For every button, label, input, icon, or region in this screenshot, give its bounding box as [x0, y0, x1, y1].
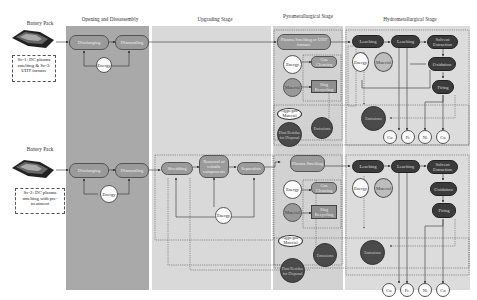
s2-shredding-node: Shredding — [161, 162, 193, 175]
s1-hydro-material-node: Material — [374, 52, 393, 72]
s2-hydro-material-node: Material — [374, 178, 393, 198]
s1-product-co: Co — [436, 130, 450, 144]
s1-oxidation-node: Oxidation — [428, 57, 456, 71]
s1-dismantling-node: Dismantling — [115, 35, 149, 50]
s2-hydro-energy-node: Energy — [352, 178, 369, 198]
s1-aggregate-node: Aggregate Material — [277, 108, 302, 120]
s1-discharging-node: Discharging — [69, 35, 109, 50]
s1-hydro-energy-node: Energy — [352, 52, 369, 72]
battery-pack-icon-2 — [10, 158, 56, 180]
s2-separation-node: Separation — [237, 162, 265, 175]
s1-pyro-energy-node: Energy — [283, 55, 302, 74]
s2-solvent-node: Solvent Extraction — [427, 160, 458, 174]
s2-pyro-material-node: Material — [283, 203, 302, 222]
s2-upgrading-energy-node: Energy — [215, 207, 232, 224]
s2-leaching1-node: Leaching — [352, 160, 384, 173]
s1-product-fe: Fe — [401, 130, 415, 144]
s2-pyro-emissions-node: Emissions — [313, 243, 337, 267]
s2-dismantling-node: Dismantling — [115, 163, 149, 178]
s2-oxidation-node: Oxidation — [430, 182, 457, 196]
s2-aggregate-node: Aggregate Material — [278, 235, 303, 247]
scenario1-note: Sc-1: DC plasma smelting & Sc-3: UHT fur… — [12, 55, 56, 82]
s1-dust-node: Dust Residue for Disposal — [277, 122, 302, 147]
s1-firing-node: Firing — [432, 80, 454, 94]
s2-slag-recycling-node: Slag Recycling — [311, 205, 337, 219]
s1-slag-recycling-node: Slag Recycling — [311, 80, 337, 93]
s2-firing-node: Firing — [432, 203, 456, 218]
scenario2-note: Sc-2: DC plasma smelting with pre-treatm… — [15, 188, 65, 214]
s2-product-co: Co — [436, 283, 450, 297]
battery-pack-icon — [10, 28, 56, 50]
s1-pyro-material-node: Material — [283, 78, 302, 97]
s1-gas-cleaning-node: Gas Cleaning — [311, 56, 337, 68]
s2-product-cu: Cu — [382, 283, 396, 297]
s1-hydro-emissions-node: Emissions — [361, 106, 386, 131]
s2-removal-node: Removal of volatile components — [199, 155, 229, 178]
s1-smelting-node: Plasma Smelting or UHT furnace — [277, 34, 331, 50]
s2-dust-node: Dust Residue for Disposal — [280, 258, 305, 283]
s1-leaching1-node: Leaching — [352, 35, 384, 48]
s2-gas-cleaning-node: Gas Cleaning — [311, 182, 337, 194]
battery-pack-heading-2: Battery Pack — [10, 146, 70, 152]
s2-discharging-node: Discharging — [69, 163, 109, 178]
s1-solvent-node: Solvent Extraction — [427, 35, 458, 49]
s1-product-ni: Ni — [418, 130, 432, 144]
s2-leaching2-node: Leaching — [391, 160, 420, 173]
s2-product-fe: Fe — [400, 283, 414, 297]
s1-product-cu: Cu — [383, 130, 397, 144]
s1-pyro-emissions-node: Emissions — [311, 117, 333, 139]
s2-hydro-emissions-node: Emissions — [360, 240, 385, 265]
s2-product-ni: Ni — [418, 283, 432, 297]
s1-opening-energy-node: Energy — [96, 57, 112, 73]
s1-leaching2-node: Leaching — [391, 35, 420, 48]
s2-opening-energy-node: Energy — [100, 185, 118, 203]
s2-pyro-energy-node: Energy — [283, 180, 302, 199]
s2-smelting-node: Plasma Smelting — [290, 155, 325, 172]
